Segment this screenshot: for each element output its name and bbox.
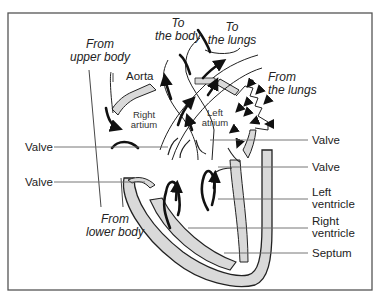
label-aorta: Aorta bbox=[126, 70, 154, 82]
label-to-lungs: Tothe lungs bbox=[208, 20, 257, 47]
callout-right-ventricle: Rightventricle bbox=[312, 215, 355, 239]
callout-septum: Septum bbox=[312, 247, 352, 259]
callout-left-ventricle: Leftventricle bbox=[312, 186, 355, 210]
callout-valve-upper-left: Valve bbox=[25, 141, 53, 153]
label-to-body: Tothe body bbox=[155, 16, 202, 43]
callout-valve-lower-right: Valve bbox=[312, 161, 340, 173]
label-from-upper-body: Fromupper body bbox=[70, 37, 131, 64]
valves bbox=[128, 138, 240, 188]
label-from-lungs: Fromthe lungs bbox=[268, 70, 317, 97]
vena-cava-lines bbox=[89, 70, 123, 207]
top-labels: Tothe body Tothe lungs Fromupper body Fr… bbox=[70, 16, 317, 239]
label-right-atrium: Rightartium bbox=[131, 109, 157, 130]
heart-wall bbox=[123, 150, 272, 286]
right-callouts: Valve Valve Leftventricle Rightventricle… bbox=[312, 134, 355, 259]
callout-valve-lower-left: Valve bbox=[25, 176, 53, 188]
left-callouts: Valve Valve bbox=[25, 141, 53, 188]
callout-valve-upper-right: Valve bbox=[312, 134, 340, 146]
label-left-atrium: Leftatrium bbox=[202, 107, 228, 128]
heart-diagram: Tothe body Tothe lungs Fromupper body Fr… bbox=[0, 0, 382, 300]
